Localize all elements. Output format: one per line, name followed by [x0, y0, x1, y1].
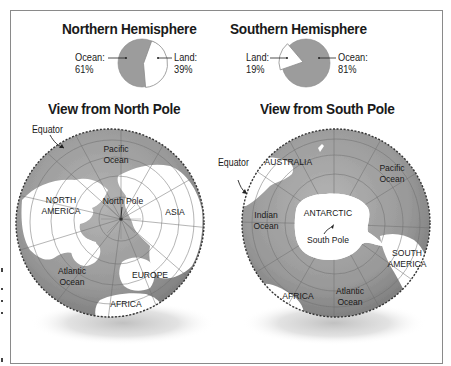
north-africa-label: AFRICA [108, 299, 144, 310]
south-ocean-value: 81% [338, 64, 356, 75]
south-atlantic-label-2: Ocean [332, 297, 368, 308]
north-america-label-1: NORTH [39, 195, 84, 206]
south-africa-label: AFRICA [280, 291, 316, 302]
australia-label: AUSTRALIA [265, 157, 312, 168]
indian-ocean-label-1: Indian [248, 210, 284, 221]
north-pacific-label-1: Pacific [98, 144, 134, 155]
south-america-label-2: AMERICA [385, 259, 430, 270]
asia-label: ASIA [162, 207, 189, 218]
north-pacific-label-2: Ocean [98, 155, 134, 166]
north-land-value: 39% [174, 64, 192, 75]
south-ocean-label: Ocean: [338, 52, 368, 63]
south-pole-label: South Pole [305, 235, 352, 246]
north-america-label-2: AMERICA [39, 206, 84, 217]
antarctic-label: ANTARCTIC [301, 208, 355, 219]
south-equator-label: Equator [218, 157, 249, 168]
north-ocean-value: 61% [75, 64, 93, 75]
indian-ocean-label-2: Ocean [248, 221, 284, 232]
south-america-label-1: SOUTH [385, 248, 430, 259]
south-pacific-label-2: Ocean [374, 174, 410, 185]
north-pie-title: Northern Hemisphere [62, 20, 196, 38]
north-equator-label: Equator [32, 124, 63, 135]
south-globe-title: View from South Pole [260, 100, 395, 118]
north-land-label: Land: [174, 52, 197, 63]
europe-label: EUROPE [130, 270, 170, 281]
north-globe-title: View from North Pole [48, 100, 180, 118]
south-land-label: Land: [246, 52, 269, 63]
north-atlantic-label-2: Ocean [54, 277, 90, 288]
south-land-value: 19% [246, 64, 264, 75]
south-pacific-label-1: Pacific [374, 163, 410, 174]
south-atlantic-label-1: Atlantic [332, 286, 368, 297]
north-ocean-label: Ocean: [75, 52, 105, 63]
north-atlantic-label-1: Atlantic [54, 266, 90, 277]
south-pie-title: Southern Hemisphere [230, 20, 367, 38]
south-pie-chart [279, 39, 330, 87]
north-pole-label: North Pole [101, 196, 146, 207]
north-pie-chart [118, 39, 168, 87]
